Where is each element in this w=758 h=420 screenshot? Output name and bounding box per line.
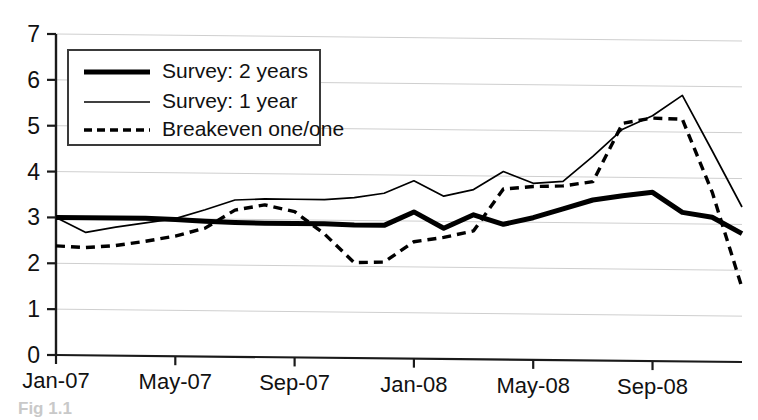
y-tick-label-7: 7 xyxy=(27,21,40,47)
x-tick-label-May-07: May-07 xyxy=(139,369,212,394)
y-tick-label-0: 0 xyxy=(27,342,40,368)
y-tick-label-2: 2 xyxy=(27,250,40,276)
figure-caption: Fig 1.1 xyxy=(18,399,72,418)
y-tick-label-4: 4 xyxy=(27,159,40,185)
legend-label-2: Breakeven one/one xyxy=(162,117,344,140)
y-tick-label-6: 6 xyxy=(27,67,40,93)
x-tick-label-Sep-07: Sep-07 xyxy=(259,370,330,395)
y-tick-label-3: 3 xyxy=(27,204,40,230)
x-tick-label-Jan-08: Jan-08 xyxy=(380,372,447,397)
x-tick-label-May-08: May-08 xyxy=(497,373,570,398)
legend-label-0: Survey: 2 years xyxy=(162,59,308,82)
x-tick-label-Sep-08: Sep-08 xyxy=(617,374,688,399)
x-tick-label-Jan-07: Jan-07 xyxy=(22,368,89,393)
chart-figure: 01234567 Jan-07May-07Sep-07Jan-08May-08S… xyxy=(0,0,758,420)
y-tick-label-5: 5 xyxy=(27,113,40,139)
line-chart-svg: 01234567 Jan-07May-07Sep-07Jan-08May-08S… xyxy=(0,0,758,420)
legend-label-1: Survey: 1 year xyxy=(162,89,297,112)
y-tick-label-1: 1 xyxy=(27,296,40,322)
chart-legend: Survey: 2 yearsSurvey: 1 yearBreakeven o… xyxy=(68,50,344,145)
